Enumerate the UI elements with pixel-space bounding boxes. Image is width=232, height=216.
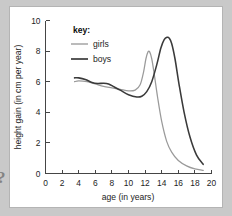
- x-tick-label: 12: [140, 178, 150, 188]
- x-tick-label: 10: [124, 178, 134, 188]
- y-tick-label: 10: [31, 16, 41, 26]
- x-tick-label: 8: [110, 178, 115, 188]
- legend-label-girls: girls: [93, 39, 109, 49]
- y-tick-label: 4: [36, 107, 41, 117]
- y-axis-ticks: 0246810: [31, 16, 49, 179]
- x-tick-label: 16: [174, 178, 184, 188]
- x-tick-label: 4: [76, 178, 81, 188]
- height-gain-line-chart: 0246810 02468101214161820 age (in years)…: [10, 7, 222, 207]
- chart-legend: key: girlsboys: [71, 25, 111, 64]
- x-axis-ticks: 02468101214161820: [43, 170, 216, 188]
- figure-root: ? 0246810 02468101214161820 age (in year…: [0, 0, 232, 216]
- legend-label-boys: boys: [93, 54, 111, 64]
- y-tick-label: 6: [36, 77, 41, 87]
- chart-card: 0246810 02468101214161820 age (in years)…: [9, 6, 223, 208]
- y-tick-label: 8: [36, 46, 41, 56]
- axes-group: [46, 21, 212, 174]
- y-tick-label: 2: [36, 138, 41, 148]
- x-tick-label: 18: [190, 178, 200, 188]
- x-axis-title: age (in years): [102, 192, 155, 202]
- y-axis-title: height gain (in cm per year): [13, 45, 23, 150]
- legend-title: key:: [73, 25, 90, 35]
- x-tick-label: 20: [207, 178, 217, 188]
- x-tick-label: 14: [157, 178, 167, 188]
- x-tick-label: 2: [60, 178, 65, 188]
- x-tick-label: 6: [93, 178, 98, 188]
- x-tick-label: 0: [43, 178, 48, 188]
- y-tick-label: 0: [36, 169, 41, 179]
